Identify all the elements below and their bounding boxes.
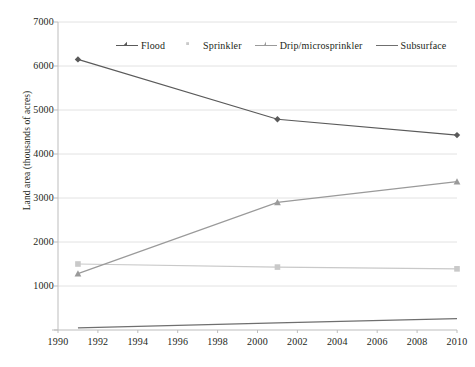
line-chart: Land area (thousands of acres) 100020003…: [0, 0, 475, 367]
x-axis-tick-labels: 1990199219941996199820002002200420062008…: [0, 0, 475, 367]
data-point-marker: [186, 42, 189, 45]
x-tick-label: 2010: [434, 337, 475, 347]
chart-legend: FloodSprinklerDrip/microsprinklerSubsurf…: [116, 37, 459, 53]
legend-swatch-icon: [116, 40, 138, 50]
legend-item-sprinkler[interactable]: Sprinkler: [178, 40, 242, 51]
data-point-marker: [124, 42, 127, 45]
legend-label: Flood: [141, 40, 165, 51]
legend-swatch-icon: [255, 40, 277, 50]
legend-swatch-icon: [178, 40, 200, 50]
legend-item-drip-microsprinkler[interactable]: Drip/microsprinkler: [255, 40, 363, 51]
legend-label: Subsurface: [401, 40, 447, 51]
legend-label: Sprinkler: [203, 40, 242, 51]
legend-item-flood[interactable]: Flood: [116, 40, 165, 51]
legend-label: Drip/microsprinkler: [280, 40, 363, 51]
data-point-marker: [262, 42, 265, 45]
legend-swatch-icon: [376, 40, 398, 50]
legend-item-subsurface[interactable]: Subsurface: [376, 40, 447, 51]
